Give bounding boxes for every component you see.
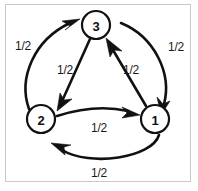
node-3-label: 3 [92,19,99,34]
edge-label-3-to-2-inner: 1/2 [57,63,73,77]
edge-2-to-1-middle-arrowhead [122,107,140,118]
node-3[interactable]: 3 [82,11,110,39]
node-1[interactable]: 1 [141,105,169,133]
edge-2-to-1-middle-path [57,108,128,116]
node-2-label: 2 [37,113,44,128]
edge-1-to-2-bottom [51,135,159,159]
figure-root: 3 2 1 1/2 1/2 1/2 1/2 1/2 1/2 [0,0,198,191]
edge-label-1-to-2-bottom: 1/2 [91,166,107,180]
edge-2-to-1-middle [57,107,140,118]
edge-label-2-to-3-outer: 1/2 [15,39,31,53]
edge-1-to-2-bottom-path [62,135,159,159]
edge-label-3-to-1-outer: 1/2 [168,40,184,54]
edge-1-to-3-inner-path [113,50,146,106]
node-1-label: 1 [151,113,158,128]
transition-diagram: 3 2 1 [0,0,198,191]
edge-label-1-to-3-inner: 1/2 [123,63,139,77]
node-2[interactable]: 2 [27,105,55,133]
edge-label-2-to-1-middle: 1/2 [91,121,107,135]
